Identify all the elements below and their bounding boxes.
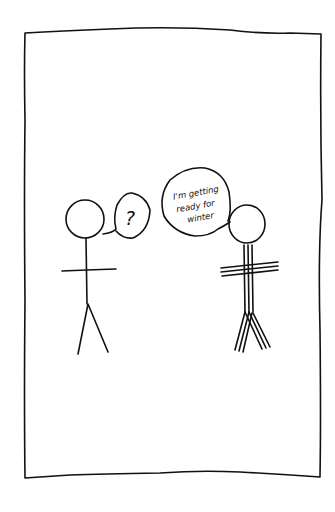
left-stick-figure	[62, 200, 116, 354]
question-bubble: ?	[103, 193, 150, 238]
right-head	[229, 205, 265, 243]
panel-border	[25, 28, 323, 478]
right-stick-figure	[221, 205, 278, 352]
left-arms	[62, 269, 116, 271]
left-head	[66, 200, 104, 238]
question-mark: ?	[125, 207, 135, 229]
left-body	[86, 238, 87, 304]
comic-panel: ? I'm getting ready for winter	[0, 0, 335, 512]
bubble-line-3: winter	[186, 210, 215, 225]
winter-speech-bubble: I'm getting ready for winter	[162, 168, 230, 236]
left-legs	[78, 304, 108, 354]
